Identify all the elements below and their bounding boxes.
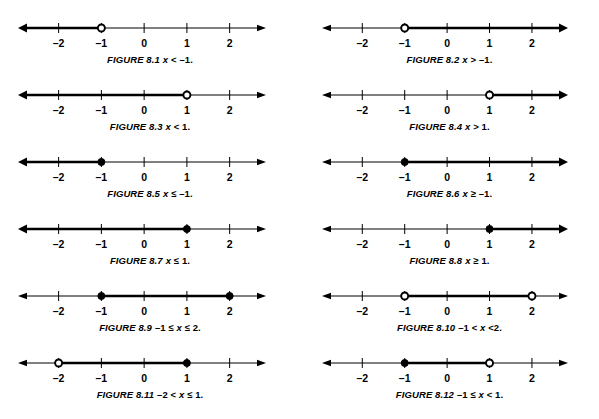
figure-caption-label: FIGURE 8.12 (396, 389, 454, 400)
open-endpoint-marker (55, 360, 62, 367)
closed-endpoint-marker (401, 159, 408, 166)
tick-label: 0 (141, 37, 147, 49)
tick-label: 2 (227, 37, 233, 49)
tick-label: 0 (141, 372, 147, 384)
expression-suffix: < 1. (171, 121, 190, 132)
tick-label: –1 (399, 104, 411, 116)
tick-label: –2 (53, 104, 65, 116)
number-line: –2–1012 (300, 213, 599, 251)
figure-8-2: –2–1012FIGURE 8.2x > –1. (300, 12, 599, 79)
figure-caption-expression: x > –1. (459, 54, 492, 65)
tick-label: –1 (96, 238, 108, 250)
expression-prefix: –1 ≤ (457, 389, 479, 400)
tick-label: –1 (96, 171, 108, 183)
tick-label: –1 (399, 305, 411, 317)
arrowhead-right (257, 159, 266, 165)
expression-suffix: ≥ 1. (471, 255, 490, 266)
tick-label: 0 (444, 104, 450, 116)
tick-label: –2 (53, 372, 65, 384)
closed-endpoint-marker (486, 226, 493, 233)
figure-caption-label: FIGURE 8.11 (97, 389, 154, 400)
arrowhead-left (322, 159, 331, 165)
tick-label: –1 (96, 372, 108, 384)
tick-label: –2 (53, 171, 65, 183)
tick-label: 1 (184, 372, 190, 384)
tick-label: 1 (487, 37, 493, 49)
arrowhead-left (18, 293, 27, 299)
tick-label: 1 (487, 171, 493, 183)
arrowhead-right (257, 92, 266, 98)
number-line: –2–1012 (0, 79, 300, 117)
figure-caption-expression: –1 < x <2. (455, 322, 502, 333)
figure-caption: FIGURE 8.4x > 1. (300, 121, 599, 133)
tick-label: –1 (399, 238, 411, 250)
figure-8-6: –2–1012FIGURE 8.6x ≥ –1. (300, 146, 599, 213)
figure-caption: FIGURE 8.3x < 1. (0, 121, 300, 133)
figure-caption: FIGURE 8.8x ≥ 1. (300, 255, 599, 267)
expression-prefix: –1 ≤ (155, 322, 177, 333)
number-line: –2–1012 (0, 213, 300, 251)
arrowhead-left (322, 360, 331, 366)
tick-label: –2 (53, 37, 65, 49)
expression-prefix: –2 < (157, 389, 179, 400)
figure-caption: FIGURE 8.9–1 ≤ x ≤ 2. (0, 322, 300, 334)
figure-caption: FIGURE 8.12–1 ≤ x < 1. (300, 389, 599, 401)
figure-caption-label: FIGURE 8.6 (407, 188, 460, 199)
tick-label: –1 (399, 171, 411, 183)
tick-label: 2 (227, 238, 233, 250)
tick-label: 1 (184, 104, 190, 116)
figure-8-7: –2–1012FIGURE 8.7x ≤ 1. (0, 213, 300, 280)
figure-caption: FIGURE 8.7x ≤ 1. (0, 255, 300, 267)
figure-caption-label: FIGURE 8.2 (407, 54, 460, 65)
arrowhead-right (559, 360, 568, 366)
figure-8-4: –2–1012FIGURE 8.4x > 1. (300, 79, 599, 146)
figure-caption-expression: x < –1. (160, 54, 193, 65)
number-line: –2–1012 (300, 79, 599, 117)
expression-suffix: ≥ –1. (468, 188, 492, 199)
tick-label: –2 (53, 305, 65, 317)
expression-suffix: > 1. (470, 121, 489, 132)
tick-label: 2 (227, 372, 233, 384)
arrowhead-right (257, 293, 266, 299)
tick-label: –1 (96, 305, 108, 317)
tick-label: 2 (529, 372, 535, 384)
expression-suffix: < –1. (168, 54, 193, 65)
closed-endpoint-marker (183, 226, 190, 233)
open-endpoint-marker (486, 92, 493, 99)
figure-8-8: –2–1012FIGURE 8.8x ≥ 1. (300, 213, 599, 280)
tick-label: –2 (356, 372, 368, 384)
figure-caption-expression: x ≥ –1. (460, 188, 493, 199)
figure-caption-expression: x ≤ –1. (160, 188, 193, 199)
tick-label: 0 (141, 238, 147, 250)
open-endpoint-marker (401, 293, 408, 300)
figure-8-10: –2–1012FIGURE 8.10–1 < x <2. (300, 280, 599, 347)
expression-suffix: <2. (485, 322, 502, 333)
figure-8-1: –2–1012FIGURE 8.1x < –1. (0, 12, 300, 79)
tick-label: 0 (141, 104, 147, 116)
figure-caption-label: FIGURE 8.4 (409, 121, 462, 132)
arrowhead-right (257, 360, 266, 366)
tick-label: 1 (184, 37, 190, 49)
number-line: –2–1012 (0, 280, 300, 318)
expression-suffix: ≤ 2. (182, 322, 201, 333)
figure-caption-expression: x < 1. (163, 121, 191, 132)
closed-endpoint-marker (98, 159, 105, 166)
figure-caption-expression: x ≥ 1. (462, 255, 489, 266)
figure-caption-label: FIGURE 8.7 (110, 255, 163, 266)
tick-label: 0 (444, 37, 450, 49)
tick-label: 1 (487, 238, 493, 250)
figure-8-9: –2–1012FIGURE 8.9–1 ≤ x ≤ 2. (0, 280, 300, 347)
tick-label: 2 (529, 238, 535, 250)
open-endpoint-marker (528, 293, 535, 300)
arrowhead-left (322, 25, 331, 31)
tick-label: 2 (529, 171, 535, 183)
figure-caption-label: FIGURE 8.9 (99, 322, 152, 333)
figure-caption-expression: –2 < x ≤ 1. (154, 389, 203, 400)
figure-caption: FIGURE 8.10–1 < x <2. (300, 322, 599, 334)
tick-label: –2 (356, 171, 368, 183)
figure-8-11: –2–1012FIGURE 8.11–2 < x ≤ 1. (0, 347, 300, 414)
figure-caption: FIGURE 8.1x < –1. (0, 54, 300, 66)
arrowhead-left (322, 226, 331, 232)
tick-label: 2 (529, 104, 535, 116)
figure-caption-label: FIGURE 8.10 (397, 322, 455, 333)
